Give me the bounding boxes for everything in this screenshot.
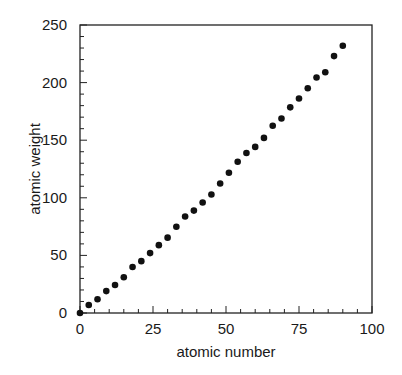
data-point xyxy=(182,213,189,220)
data-point xyxy=(340,42,347,49)
data-point xyxy=(287,104,294,111)
x-tick-label: 75 xyxy=(291,320,308,337)
data-point xyxy=(313,74,320,81)
data-point xyxy=(208,191,215,198)
data-point xyxy=(85,302,92,309)
data-point xyxy=(269,123,276,130)
y-axis-title: atomic weight xyxy=(26,122,43,215)
data-point xyxy=(156,242,163,249)
data-point xyxy=(243,150,250,157)
y-tick-label: 50 xyxy=(50,246,67,263)
data-point xyxy=(103,288,110,295)
y-tick-label: 250 xyxy=(42,16,67,33)
data-point xyxy=(173,223,180,230)
y-tick-label: 100 xyxy=(42,189,67,206)
data-point xyxy=(252,144,259,151)
data-point xyxy=(138,258,145,265)
data-point xyxy=(296,95,303,102)
data-point xyxy=(164,234,171,241)
x-tick-label: 25 xyxy=(145,320,162,337)
y-tick-label: 0 xyxy=(59,304,67,321)
x-tick-label: 50 xyxy=(218,320,235,337)
data-point xyxy=(261,135,268,142)
x-axis-title: atomic number xyxy=(176,343,275,360)
data-point xyxy=(121,274,128,281)
data-point xyxy=(304,85,311,92)
data-point xyxy=(226,169,233,176)
data-point xyxy=(94,296,101,303)
data-point xyxy=(278,115,285,122)
data-point xyxy=(331,53,338,60)
plot-area xyxy=(80,25,372,313)
data-point xyxy=(191,207,198,214)
data-point xyxy=(77,310,84,317)
data-point xyxy=(217,180,224,187)
x-tick-label: 0 xyxy=(76,320,84,337)
data-point xyxy=(129,264,136,271)
scatter-chart: 0255075100 050100150200250 atomic number… xyxy=(0,0,402,375)
y-tick-label: 200 xyxy=(42,74,67,91)
data-point xyxy=(234,158,241,165)
data-point xyxy=(112,282,119,289)
x-tick-label: 100 xyxy=(359,320,384,337)
data-point xyxy=(147,250,154,257)
y-tick-label: 150 xyxy=(42,131,67,148)
y-axis-tick-labels: 050100150200250 xyxy=(42,16,67,321)
data-point xyxy=(199,199,206,206)
data-point xyxy=(322,69,329,76)
x-axis-tick-labels: 0255075100 xyxy=(76,320,385,337)
